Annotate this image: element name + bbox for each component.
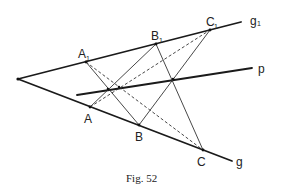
dashed-line-A1-C — [86, 62, 203, 150]
label-B: B — [135, 130, 143, 144]
point-B — [138, 124, 141, 127]
intersection-point-2 — [118, 86, 120, 88]
label-B1: B — [151, 29, 159, 43]
label-C1-subscript: 1 — [214, 23, 218, 30]
label-A: A — [84, 112, 92, 126]
label-p: p — [258, 62, 265, 76]
intersection-point-3 — [172, 78, 175, 81]
label-A1-subscript: 1 — [86, 55, 90, 62]
line-B-C1 — [139, 30, 210, 125]
label-g: g — [236, 155, 243, 169]
point-B1 — [155, 43, 158, 46]
intersection-point-1 — [107, 88, 110, 91]
figure-52: A 1 B 1 C 1 A B C g 1 p g Fig. 52 — [0, 0, 282, 196]
line-A-B1 — [90, 44, 156, 107]
point-C — [202, 149, 205, 152]
label-A1: A — [78, 47, 86, 61]
label-g1: g — [250, 14, 257, 28]
point-C1 — [209, 29, 212, 32]
line-g1 — [18, 22, 241, 79]
geometry-diagram: A 1 B 1 C 1 A B C g 1 p g Fig. 52 — [0, 0, 282, 196]
label-B1-subscript: 1 — [159, 37, 163, 44]
label-g1-subscript: 1 — [257, 20, 261, 27]
dashed-line-A-C1 — [90, 30, 210, 107]
point-A — [89, 106, 92, 109]
vertex-point — [16, 77, 19, 80]
figure-caption: Fig. 52 — [126, 172, 157, 184]
label-C: C — [197, 155, 206, 169]
